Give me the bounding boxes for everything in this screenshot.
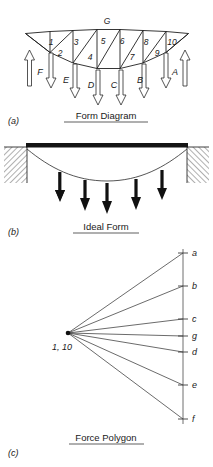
panel-c-title: Force Polygon: [75, 432, 136, 443]
polygon-label-g: g: [192, 331, 197, 341]
polygon-label-b: b: [192, 281, 197, 291]
panel-b-title: Ideal Form: [83, 221, 128, 232]
member-number-4: 4: [88, 52, 93, 62]
pole-point: [66, 331, 71, 336]
top-beam: [26, 143, 188, 148]
member-number-10: 10: [167, 37, 177, 47]
figure-background: [0, 0, 213, 467]
support-hatch-right: [187, 147, 209, 183]
zone-label-f: F: [37, 67, 43, 77]
pole-label: 1, 10: [52, 342, 72, 352]
zone-label-c: C: [111, 80, 118, 90]
structural-figure-canvas: G 1 2 3 4 5 6 7 8 9 10: [0, 0, 213, 467]
member-number-3: 3: [74, 37, 79, 47]
zone-label-b: B: [137, 75, 143, 85]
zone-label-e: E: [63, 75, 70, 85]
member-number-8: 8: [144, 37, 149, 47]
member-number-7: 7: [130, 52, 135, 62]
member-number-2: 2: [57, 48, 63, 58]
panel-b-tag: (b): [8, 227, 19, 237]
polygon-label-a: a: [192, 248, 197, 258]
zone-label-d: D: [88, 80, 95, 90]
panel-a-tag: (a): [8, 116, 19, 126]
member-number-1: 1: [49, 37, 54, 47]
panel-c-tag: (c): [8, 448, 19, 458]
support-hatch-left: [4, 147, 27, 183]
member-number-5: 5: [101, 36, 106, 46]
member-number-6: 6: [120, 36, 125, 46]
top-chord-label-g: G: [104, 16, 111, 26]
polygon-label-c: c: [192, 314, 197, 324]
member-number-9: 9: [155, 48, 160, 58]
zone-label-a: A: [171, 67, 178, 77]
polygon-label-e: e: [192, 380, 197, 390]
panel-a-title: Form Diagram: [76, 110, 137, 121]
